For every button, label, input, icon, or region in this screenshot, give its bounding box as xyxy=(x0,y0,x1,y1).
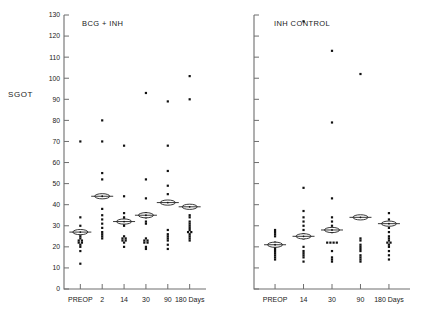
data-point xyxy=(386,242,388,244)
data-point xyxy=(189,225,191,227)
y-tick-label: 10 xyxy=(52,264,60,271)
data-point xyxy=(101,231,103,233)
data-point xyxy=(146,239,148,241)
data-point xyxy=(145,197,147,199)
data-point xyxy=(274,252,276,254)
data-point xyxy=(302,210,304,212)
data-point xyxy=(388,258,390,260)
data-point xyxy=(79,235,81,237)
data-point xyxy=(123,212,125,214)
data-point xyxy=(79,244,81,246)
data-point xyxy=(331,261,333,263)
data-point xyxy=(331,225,333,227)
data-point xyxy=(121,237,123,239)
mean-center-dot xyxy=(303,235,305,237)
y-tick-label: 120 xyxy=(49,32,61,39)
data-point xyxy=(79,140,81,142)
data-point xyxy=(359,254,361,256)
data-point xyxy=(189,227,191,229)
data-point xyxy=(143,239,145,241)
data-point xyxy=(125,237,127,239)
data-point xyxy=(274,233,276,235)
data-point xyxy=(302,229,304,231)
mean-center-dot xyxy=(274,244,276,246)
data-point xyxy=(101,172,103,174)
data-point xyxy=(331,197,333,199)
data-point xyxy=(81,242,83,244)
data-point xyxy=(359,250,361,252)
data-point xyxy=(145,237,147,239)
data-point xyxy=(388,246,390,248)
y-axis-title: SGOT xyxy=(8,90,33,99)
data-point xyxy=(331,258,333,260)
y-tick-label: 80 xyxy=(52,117,60,124)
data-point xyxy=(302,261,304,263)
data-point xyxy=(388,239,390,241)
data-point xyxy=(359,237,361,239)
data-point xyxy=(167,170,169,172)
data-point xyxy=(388,237,390,239)
data-point xyxy=(167,145,169,147)
data-point xyxy=(123,145,125,147)
data-point xyxy=(123,242,125,244)
data-point xyxy=(167,244,169,246)
data-point xyxy=(302,187,304,189)
y-tick-label: 50 xyxy=(52,180,60,187)
data-point xyxy=(189,75,191,77)
data-point xyxy=(302,254,304,256)
data-point xyxy=(187,231,189,233)
y-tick-label: 20 xyxy=(52,243,60,250)
data-point xyxy=(79,225,81,227)
data-point xyxy=(101,140,103,142)
data-point xyxy=(274,231,276,233)
data-point xyxy=(359,261,361,263)
data-point xyxy=(167,193,169,195)
mean-center-dot xyxy=(123,221,125,223)
data-point xyxy=(333,242,335,244)
data-point xyxy=(189,214,191,216)
data-point xyxy=(326,242,328,244)
data-point xyxy=(101,214,103,216)
x-tick-label: 30 xyxy=(142,296,150,303)
data-point xyxy=(302,216,304,218)
data-point xyxy=(145,248,147,250)
data-point xyxy=(146,242,148,244)
data-point xyxy=(79,250,81,252)
data-point xyxy=(189,220,191,222)
data-point xyxy=(388,254,390,256)
y-tick-label: 60 xyxy=(52,159,60,166)
data-point xyxy=(302,225,304,227)
mean-center-dot xyxy=(388,223,390,225)
data-point xyxy=(331,250,333,252)
data-point xyxy=(359,256,361,258)
y-tick-label: 110 xyxy=(49,54,60,61)
data-point xyxy=(189,216,191,218)
data-point xyxy=(302,256,304,258)
data-point xyxy=(101,227,103,229)
data-point xyxy=(329,242,331,244)
data-point xyxy=(79,246,81,248)
data-point xyxy=(388,235,390,237)
data-point xyxy=(145,246,147,248)
x-tick-label: 90 xyxy=(357,296,365,303)
y-tick-label: 90 xyxy=(52,96,60,103)
data-point xyxy=(331,216,333,218)
mean-center-dot xyxy=(101,195,103,197)
data-point xyxy=(302,20,304,22)
data-point xyxy=(274,235,276,237)
data-point xyxy=(359,246,361,248)
data-point xyxy=(167,237,169,239)
y-tick-label: 70 xyxy=(52,138,60,145)
data-point xyxy=(359,244,361,246)
data-point xyxy=(145,92,147,94)
y-tick-label: 130 xyxy=(49,11,61,18)
data-point xyxy=(189,235,191,237)
data-point xyxy=(274,250,276,252)
data-point xyxy=(331,220,333,222)
mean-center-dot xyxy=(360,216,362,218)
data-point xyxy=(123,216,125,218)
data-point xyxy=(81,239,83,241)
data-point xyxy=(123,225,125,227)
data-point xyxy=(274,254,276,256)
data-point xyxy=(123,235,125,237)
